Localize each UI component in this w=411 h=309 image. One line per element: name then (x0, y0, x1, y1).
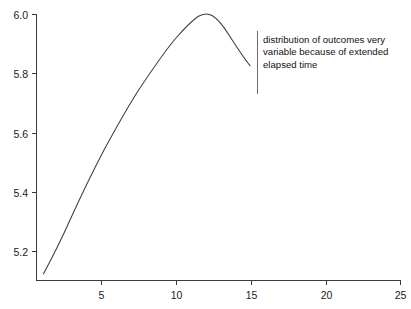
y-tick-label-5-2: 5.2 (2, 247, 28, 258)
x-tick-label-10: 10 (162, 290, 191, 301)
y-axis-ticks (32, 15, 37, 252)
y-tick-label-5-6: 5.6 (2, 129, 28, 140)
line-chart: 6.0 5.8 5.6 5.4 5.2 5 10 15 20 25 distri… (0, 0, 411, 309)
x-axis-ticks (102, 281, 401, 286)
annotation-line-2: variable because of extended (263, 46, 407, 58)
y-tick-label-5-8: 5.8 (2, 69, 28, 80)
x-tick-label-5: 5 (87, 290, 116, 301)
annotation-line-1: distribution of outcomes very (263, 34, 407, 46)
y-tick-label-6-0: 6.0 (2, 10, 28, 21)
annotation-line-3: elapsed time (263, 59, 407, 71)
y-tick-label-5-4: 5.4 (2, 188, 28, 199)
x-tick-label-15: 15 (237, 290, 266, 301)
x-tick-label-20: 20 (312, 290, 341, 301)
x-tick-label-25: 25 (386, 290, 411, 301)
chart-annotation: distribution of outcomes very variable b… (263, 34, 407, 71)
data-line-outcome-curve (44, 14, 251, 274)
